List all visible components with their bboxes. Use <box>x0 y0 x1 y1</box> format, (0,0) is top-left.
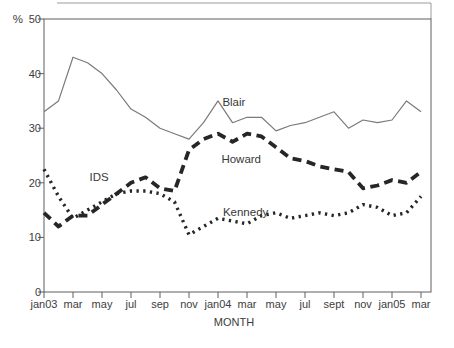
x-tick-label: jan05 <box>378 298 406 310</box>
x-tick-label: sept <box>324 298 345 310</box>
series-label-kennedy: Kennedy <box>223 206 269 218</box>
y-tick-label: 30 <box>29 122 41 134</box>
leader-ratings-line-chart: 01020304050%jan03marmayjulsepnovjan04mar… <box>0 0 454 348</box>
x-tick-label: mar <box>412 298 431 310</box>
x-tick-label: may <box>266 298 287 310</box>
x-tick-label: mar <box>64 298 83 310</box>
x-tick-label: jul <box>124 298 136 310</box>
series-label-howard: Howard <box>221 153 261 165</box>
x-tick-label: jul <box>298 298 310 310</box>
y-tick-label: 10 <box>29 231 41 243</box>
chart-canvas: 01020304050%jan03marmayjulsepnovjan04mar… <box>0 0 454 348</box>
series-label-blair: Blair <box>222 96 245 108</box>
x-tick-label: nov <box>180 298 198 310</box>
y-tick-label: 20 <box>29 177 41 189</box>
y-tick-label: 0 <box>35 286 41 298</box>
x-tick-label: sep <box>151 298 169 310</box>
y-tick-label: 50 <box>29 13 41 25</box>
x-tick-label: jan04 <box>204 298 232 310</box>
x-axis-title: MONTH <box>214 316 254 328</box>
x-tick-label: may <box>92 298 113 310</box>
x-tick-label: nov <box>354 298 372 310</box>
series-label-ids: IDS <box>90 171 110 183</box>
y-tick-label: 40 <box>29 68 41 80</box>
y-axis-unit-label: % <box>13 13 23 25</box>
x-tick-label: jan03 <box>30 298 58 310</box>
x-tick-label: mar <box>238 298 257 310</box>
